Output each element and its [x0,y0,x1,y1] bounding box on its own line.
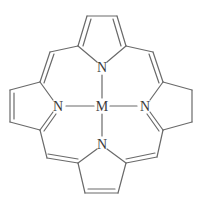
left-pyrrole-ring [10,82,56,131]
porphyrin-structure-diagram: N N N N M [0,0,204,207]
nitrogen-right-label: N [140,99,150,114]
nitrogen-top-label: N [97,60,107,75]
structure-svg: N N N N M [0,0,204,207]
right-pyrroline-ring [147,82,192,131]
nitrogen-left-label: N [53,99,63,114]
nitrogen-bottom-label: N [97,137,107,152]
bottom-pyrrole-ring [78,149,126,193]
top-pyrrole-ring [78,16,126,62]
metal-center-label: M [96,99,109,114]
